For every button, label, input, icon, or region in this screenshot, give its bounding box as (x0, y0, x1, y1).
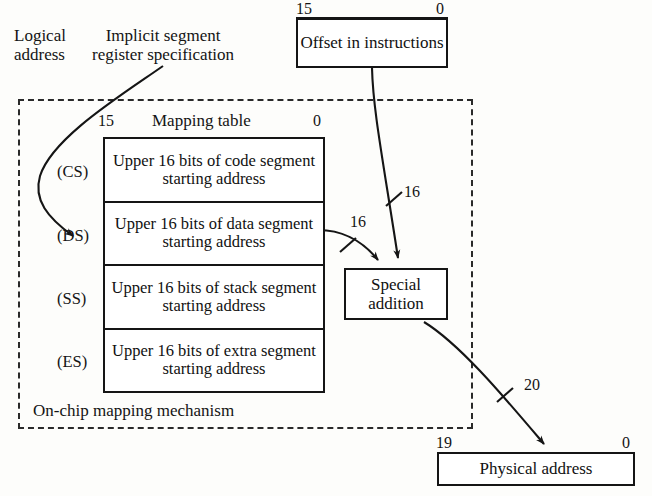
register-label-ss: (SS) (57, 289, 86, 309)
table-cell-stack-segment: Upper 16 bits of stack segment starting … (105, 279, 323, 315)
table-cell-data-segment: Upper 16 bits of data segment starting a… (105, 215, 323, 251)
table-cell-code-segment: Upper 16 bits of code segment starting a… (105, 152, 323, 188)
implicit-segment-label: Implicit segment register specification (92, 26, 234, 64)
offset-width-label: 16 (404, 183, 420, 201)
mapping-table: Upper 16 bits of code segment starting a… (103, 137, 325, 393)
segmentation-diagram: Logical address Implicit segment registe… (0, 0, 652, 496)
register-label-es: (ES) (57, 352, 87, 372)
on-chip-caption: On-chip mapping mechanism (33, 401, 234, 421)
table-cell-extra-segment: Upper 16 bits of extra segment starting … (105, 342, 323, 378)
special-addition-box: Special addition (344, 268, 448, 320)
mapping-table-msb-label: 15 (98, 112, 114, 130)
offset-box-text: Offset in instructions (300, 33, 443, 52)
physical-bus-tick (497, 388, 513, 402)
logical-address-label: Logical address (14, 26, 66, 64)
physical-address-box: Physical address (437, 452, 635, 486)
table-row: Upper 16 bits of code segment starting a… (105, 139, 323, 203)
physical-lsb-label: 0 (622, 434, 630, 452)
table-row: Upper 16 bits of extra segment starting … (105, 330, 323, 392)
segment-base-width-label: 16 (350, 213, 366, 231)
physical-width-label: 20 (524, 376, 540, 394)
mapping-table-lsb-label: 0 (313, 112, 321, 130)
special-addition-text: Special addition (346, 275, 446, 313)
physical-address-text: Physical address (480, 459, 593, 478)
register-label-cs: (CS) (57, 162, 88, 182)
table-row: Upper 16 bits of data segment starting a… (105, 203, 323, 267)
offset-in-instructions-box: Offset in instructions (296, 18, 448, 68)
physical-msb-label: 19 (436, 434, 452, 452)
register-label-ds: (DS) (57, 226, 89, 246)
offset-msb-label: 15 (296, 0, 312, 18)
offset-lsb-label: 0 (436, 0, 444, 18)
mapping-table-title: Mapping table (152, 111, 251, 131)
table-row: Upper 16 bits of stack segment starting … (105, 266, 323, 330)
